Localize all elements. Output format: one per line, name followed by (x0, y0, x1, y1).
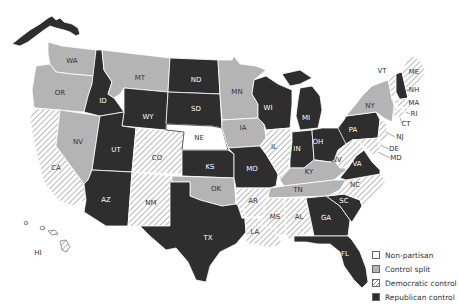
legend-label: Democratic control (385, 279, 457, 288)
label-ne: NE (194, 134, 204, 142)
label-ut: UT (111, 146, 121, 154)
label-tn: TN (292, 186, 303, 194)
label-ms: MS (270, 213, 281, 221)
label-de: DE (389, 145, 399, 153)
label-va: VA (352, 160, 361, 168)
swatch-democratic (372, 279, 380, 287)
state-wy (122, 88, 168, 130)
state-hi (24, 221, 70, 252)
label-vt: VT (377, 67, 387, 75)
label-md: MD (390, 154, 401, 162)
label-il: IL (271, 143, 277, 151)
legend-label: Non-partisan (385, 251, 433, 260)
label-ri: RI (411, 110, 418, 118)
state-co (132, 128, 184, 174)
label-nd: ND (191, 76, 202, 84)
label-ks: KS (205, 163, 215, 171)
legend-item-non-partisan: Non-partisan (372, 248, 457, 262)
label-ca: CA (51, 164, 61, 172)
state-ia (222, 118, 266, 148)
legend-label: Control split (385, 265, 430, 274)
label-ky: KY (305, 168, 314, 176)
label-nj: NJ (396, 133, 403, 141)
label-sd: SD (191, 105, 201, 113)
label-ma: MA (409, 99, 420, 107)
state-nj (378, 120, 388, 142)
legend-item-republican: Republican control (372, 290, 457, 304)
label-co: CO (152, 154, 163, 162)
label-mn: MN (231, 88, 242, 96)
legend: Non-partisan Control split Democratic co… (372, 248, 457, 304)
state-fl (294, 236, 368, 288)
swatch-non-partisan (372, 251, 380, 259)
label-wv: WV (330, 156, 342, 164)
label-nh: NH (409, 86, 420, 94)
label-wa: WA (66, 57, 78, 65)
label-id: ID (99, 97, 106, 105)
label-wy: WY (142, 113, 154, 121)
label-tx: TX (202, 234, 212, 242)
label-ar: AR (248, 197, 258, 205)
label-ga: GA (321, 214, 331, 222)
label-wi: WI (264, 104, 273, 112)
label-nv: NV (73, 138, 83, 146)
label-nc: NC (350, 181, 360, 189)
label-mi: MI (302, 114, 310, 122)
label-ia: IA (240, 124, 247, 132)
label-ok: OK (211, 185, 222, 193)
label-oh: OH (313, 138, 324, 146)
label-hi: HI (34, 249, 41, 257)
label-az: AZ (101, 196, 111, 204)
label-la: LA (251, 228, 260, 236)
label-pa: PA (349, 126, 358, 134)
label-me: ME (409, 68, 419, 76)
swatch-republican (372, 293, 380, 301)
state-ri (404, 108, 408, 114)
label-nm: NM (145, 199, 156, 207)
legend-item-democratic: Democratic control (372, 276, 457, 290)
legend-label: Republican control (385, 293, 455, 302)
label-ny: NY (365, 102, 375, 110)
swatch-control-split (372, 265, 380, 273)
label-mt: MT (135, 74, 146, 82)
legend-item-control-split: Control split (372, 262, 457, 276)
label-ct: CT (401, 120, 411, 128)
label-sc: SC (339, 197, 348, 205)
state-ak (12, 16, 80, 46)
label-or: OR (55, 89, 66, 97)
label-fl: FL (341, 250, 349, 258)
state-ct (394, 108, 404, 118)
label-al: AL (295, 213, 304, 221)
label-in: IN (293, 145, 300, 153)
label-mo: MO (246, 165, 258, 173)
